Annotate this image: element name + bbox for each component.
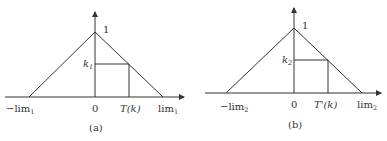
caption-b: (b) [288, 119, 302, 130]
lim-label-b: lim2 [357, 99, 377, 112]
k-projection-a [95, 64, 129, 97]
origin-label-a: 0 [92, 103, 98, 114]
panel-b: 1 k2 −lim2 0 T'(k) lim2 (b) [205, 8, 381, 130]
peak-label-b: 1 [302, 20, 308, 31]
origin-label-b: 0 [291, 99, 297, 110]
panel-a: 1 k1 −lim1 0 T(k) lim1 (a) [5, 12, 184, 133]
diagram-canvas: 1 k1 −lim1 0 T(k) lim1 (a) 1 k2 −lim2 0 … [0, 0, 387, 141]
t-label-b: T'(k) [314, 99, 337, 110]
peak-label-a: 1 [103, 24, 109, 35]
lim-label-a: lim1 [158, 103, 178, 116]
k-label-a: k1 [83, 58, 93, 71]
k-projection-b [294, 60, 328, 93]
neg-lim-label-b: −lim2 [220, 101, 248, 114]
neg-lim-label-a: −lim1 [6, 103, 34, 116]
t-label-a: T(k) [120, 103, 141, 114]
k-label-b: k2 [282, 54, 292, 67]
caption-a: (a) [89, 122, 103, 133]
